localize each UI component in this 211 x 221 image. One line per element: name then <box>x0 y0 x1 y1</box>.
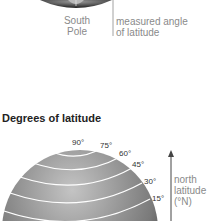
degree-label-60: 60° <box>119 149 131 158</box>
south-pole-label-line2: Pole <box>62 26 92 37</box>
north-latitude-label: north latitude (°N) <box>174 174 206 207</box>
figure-title: Degrees of latitude <box>2 112 101 124</box>
south-pole-label: South Pole <box>62 15 92 37</box>
south-pole-label-line1: South <box>62 15 92 26</box>
degree-label-15: 15° <box>152 194 164 203</box>
angle-label-line2: of latitude <box>116 27 188 38</box>
north-latitude-label-line2: latitude <box>174 185 206 196</box>
north-latitude-label-line3: (°N) <box>174 196 206 207</box>
north-latitude-label-line1: north <box>174 174 206 185</box>
degree-label-45: 45° <box>132 160 144 169</box>
degree-label-30: 30° <box>144 177 156 186</box>
degree-label-75: 75° <box>100 141 112 150</box>
globe-latitude-lines-icon <box>0 145 160 221</box>
latitude-globe <box>0 145 160 221</box>
degree-label-90: 90° <box>72 138 84 147</box>
angle-label-line1: measured angle <box>116 16 188 27</box>
angle-label: measured angle of latitude <box>116 16 188 38</box>
